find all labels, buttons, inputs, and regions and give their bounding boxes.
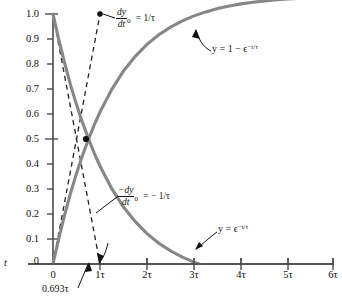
leader-slope-negative xyxy=(96,197,117,213)
slope-positive-denominator: dt xyxy=(116,19,127,29)
rising-curve-label-exponent: −t/τ xyxy=(247,43,258,51)
tangent-top-point-marker xyxy=(97,11,103,17)
x-tick-label-1t: 1τ xyxy=(87,270,113,281)
y-tick-label-1.0: 1.0 xyxy=(9,9,39,20)
half-life-annotation: 0.693τ xyxy=(42,284,69,294)
slope-positive-fraction: dy dt xyxy=(116,8,127,29)
x-tick-label-4t: 4τ xyxy=(228,270,254,281)
y-tick-label-0.7: 0.7 xyxy=(9,84,39,95)
slope-negative-subscript: 0 xyxy=(134,195,138,203)
y-tick-label-0.9: 0.9 xyxy=(9,34,39,45)
rising-curve-label: y = 1 − ϵ−t/τ xyxy=(212,44,258,54)
y-tick-label-0.8: 0.8 xyxy=(9,59,39,70)
y-tick-label-0: 0 xyxy=(9,256,39,267)
y-tick-label-0.3: 0.3 xyxy=(9,184,39,195)
arrowhead-decaying-label xyxy=(195,242,203,250)
y-tick-label-0.6: 0.6 xyxy=(9,109,39,120)
x-tick-label-0: 0 xyxy=(40,270,66,281)
slope-negative-fraction: −dy dt xyxy=(117,186,134,207)
leader-slope-positive xyxy=(103,14,115,18)
x-axis-label: t xyxy=(4,258,7,269)
decaying-curve-label-main: y = ϵ xyxy=(218,223,238,234)
slope-positive-numerator: dy xyxy=(116,8,127,19)
x-tick-label-5t: 5τ xyxy=(275,270,301,281)
slope-positive-annotation: dy dt 0 = 1/τ xyxy=(116,8,155,29)
slope-negative-equals: = − 1/τ xyxy=(143,191,170,201)
slope-positive-equals: = 1/τ xyxy=(136,13,155,23)
x-tick-label-6t: 6τ xyxy=(320,270,342,281)
y-tick-label-0.5: 0.5 xyxy=(9,134,39,145)
leader-rising-label xyxy=(196,30,211,51)
y-tick-label-0.4: 0.4 xyxy=(9,159,39,170)
decaying-curve-label-exponent: −t/τ xyxy=(238,223,249,231)
arrowhead-rising-label xyxy=(192,29,200,39)
decaying-curve-label: y = ϵ−t/τ xyxy=(218,224,248,234)
y-tick-label-0.2: 0.2 xyxy=(9,209,39,220)
slope-negative-denominator: dt xyxy=(117,197,134,207)
slope-negative-numerator: −dy xyxy=(117,186,134,197)
y-axis-ticks xyxy=(45,14,58,239)
slope-positive-subscript: 0 xyxy=(127,17,131,25)
rising-curve-label-main: y = 1 − ϵ xyxy=(212,43,247,54)
slope-negative-annotation: −dy dt 0 = − 1/τ xyxy=(117,186,170,207)
curve-decaying-exponential xyxy=(53,14,333,281)
x-tick-label-3t: 3τ xyxy=(181,270,207,281)
curve-crossing-point-marker xyxy=(83,136,89,142)
x-tick-label-2t: 2τ xyxy=(134,270,160,281)
y-tick-label-0.1: 0.1 xyxy=(9,234,39,245)
